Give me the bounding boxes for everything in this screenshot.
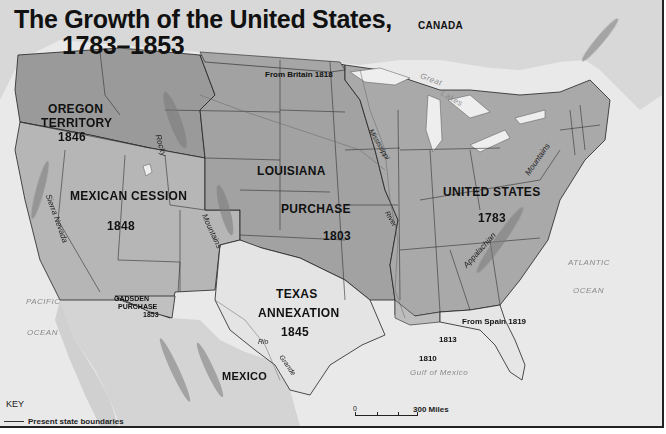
label-louisiana-1: LOUISIANA [257, 164, 326, 178]
scale-tick [398, 412, 399, 416]
label-1813: 1813 [439, 335, 457, 344]
key-title: KEY [6, 399, 24, 409]
map-title-line1: The Growth of the United States, [14, 5, 392, 33]
scale-tick [355, 412, 356, 416]
label-oregon-1: OREGON [48, 102, 103, 116]
label-mexico: MEXICO [222, 370, 267, 382]
label-pacific: PACIFIC [26, 297, 60, 306]
label-pacific-ocean: OCEAN [27, 328, 58, 337]
label-united-states: UNITED STATES [443, 185, 540, 199]
label-texas-2: ANNEXATION [258, 306, 339, 320]
scale-bar: 0 300 Miles [355, 408, 455, 416]
label-from-spain: From Spain 1819 [462, 317, 526, 326]
label-gadsden-2: PURCHASE [118, 303, 157, 310]
label-mexican-cession: MEXICAN CESSION [70, 189, 187, 203]
label-oregon-year: 1846 [58, 130, 86, 144]
key-item: Present state boundaries [4, 417, 124, 426]
label-atlantic: ATLANTIC [568, 258, 610, 267]
label-texas-1: TEXAS [276, 287, 318, 301]
key-item-label: Present state boundaries [28, 417, 124, 426]
key-line-symbol [4, 421, 24, 422]
label-rio: Rio [258, 338, 269, 345]
label-gadsden-1: GADSDEN [114, 295, 149, 302]
label-united-states-year: 1783 [478, 211, 506, 225]
map-title: The Growth of the United States, 1783–18… [14, 6, 392, 58]
scale-tick [377, 412, 378, 416]
label-louisiana-year: 1803 [323, 229, 351, 243]
label-texas-year: 1845 [281, 325, 309, 339]
label-atlantic-ocean: OCEAN [573, 286, 604, 295]
label-gulf-of-mexico: Gulf of Mexico [410, 368, 468, 377]
label-from-britain: From Britain 1818 [265, 70, 333, 79]
label-louisiana-2: PURCHASE [281, 202, 351, 216]
scale-label: 300 Miles [413, 405, 449, 414]
label-1810: 1810 [419, 354, 437, 363]
scale-line [355, 415, 417, 416]
label-oregon-2: TERRITORY [41, 116, 112, 130]
map-title-line2: 1783–1853 [14, 32, 392, 58]
map-frame: The Growth of the United States, 1783–18… [0, 0, 664, 428]
scale-zero: 0 [353, 405, 357, 412]
historical-map: The Growth of the United States, 1783–18… [0, 0, 666, 434]
label-mexican-cession-year: 1848 [107, 219, 135, 233]
label-canada: CANADA [418, 20, 463, 31]
label-gadsden-year: 1853 [143, 311, 159, 318]
